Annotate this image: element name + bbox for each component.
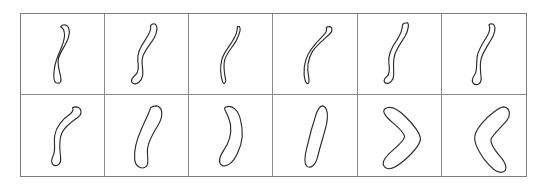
shape-outline-11-path (383, 107, 420, 168)
shape-cell-12 (442, 95, 526, 176)
shape-outline-8-path (135, 106, 162, 168)
shape-cell-1 (21, 14, 105, 95)
shape-grid (20, 13, 527, 177)
shape-cell-3 (189, 14, 273, 95)
shape-cell-5 (358, 14, 442, 95)
shape-outline-10-path (305, 106, 328, 167)
shape-outline-5-path (384, 23, 408, 84)
shape-outline-7-svg (21, 95, 104, 176)
shape-outline-7-path (52, 107, 81, 166)
shape-outline-12-svg (442, 95, 526, 176)
shape-outline-9-path (220, 106, 243, 165)
shape-outline-9-svg (189, 95, 272, 176)
shape-cell-7 (21, 95, 105, 176)
shape-outline-1-svg (21, 14, 104, 94)
shape-outline-2-svg (105, 14, 188, 94)
shape-outline-3-path (221, 27, 240, 84)
shape-outline-4-svg (273, 14, 356, 94)
shape-outline-2-path (132, 24, 157, 84)
shape-cell-11 (358, 95, 442, 176)
shape-cell-9 (189, 95, 273, 176)
shape-cell-4 (273, 14, 357, 95)
shape-cell-2 (105, 14, 189, 95)
shape-outline-3-svg (189, 14, 272, 94)
shape-outline-10-svg (273, 95, 356, 176)
shape-outline-6-path (472, 24, 494, 85)
shape-outline-4-path (305, 27, 333, 84)
shape-outline-11-svg (358, 95, 441, 176)
shape-outline-8-svg (105, 95, 188, 176)
shape-outline-6-svg (442, 14, 526, 94)
shape-outline-5-svg (358, 14, 441, 94)
figure-root (0, 0, 548, 191)
shape-cell-6 (442, 14, 526, 95)
shape-cell-8 (105, 95, 189, 176)
shape-cell-10 (273, 95, 357, 176)
shape-outline-1-path (54, 25, 70, 84)
shape-outline-12-path (475, 107, 510, 173)
